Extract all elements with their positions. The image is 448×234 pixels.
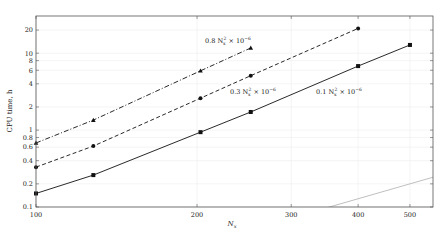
circle-marker: [356, 26, 360, 30]
square-marker: [199, 130, 203, 134]
x-axis-label: Nx: [227, 220, 237, 229]
y-tick-label: 1: [29, 126, 33, 134]
data-series: [34, 26, 412, 195]
reference-annotation: 0.3 Nx2 × 10−6: [230, 87, 276, 97]
reference-annotation: 0.8 Nx2 × 10−6: [205, 36, 251, 46]
reference-line: [36, 209, 436, 234]
x-tick-label: 300: [285, 211, 297, 219]
y-tick-label: 6: [29, 67, 33, 75]
circle-marker: [249, 74, 253, 78]
series-line: [36, 45, 410, 194]
reference-annotation: 0.1 Nx2 × 10−6: [316, 87, 362, 97]
y-tick-label: 0.2: [23, 180, 33, 188]
triangle-marker: [248, 46, 253, 50]
y-tick-label: 4: [29, 80, 33, 88]
square-marker: [91, 173, 95, 177]
x-tick-label: 400: [352, 211, 364, 219]
y-tick-label: 0.6: [23, 143, 33, 151]
y-axis-label: CPU time, h: [6, 89, 14, 132]
y-tick-label: 0.8: [23, 134, 33, 142]
y-tick-label: 10: [25, 50, 33, 58]
annotations: 0.8 Nx2 × 10−60.3 Nx2 × 10−60.1 Nx2 × 10…: [205, 36, 362, 97]
y-tick-label: 20: [25, 26, 33, 34]
series-line: [36, 48, 251, 143]
square-marker: [356, 64, 360, 68]
circle-marker: [199, 96, 203, 100]
x-tick-label: 100: [30, 211, 42, 219]
x-tick-label: 500: [404, 211, 416, 219]
circle-marker: [91, 144, 95, 148]
y-tick-label: 8: [29, 57, 33, 65]
y-tick-label: 2: [29, 103, 33, 111]
y-tick-label: 0.4: [23, 157, 33, 165]
x-tick-label: 200: [191, 211, 203, 219]
cpu-time-chart: 0.10.20.40.60.8124681020 100200300400500…: [0, 0, 448, 234]
square-marker: [408, 43, 412, 47]
square-marker: [249, 110, 253, 114]
